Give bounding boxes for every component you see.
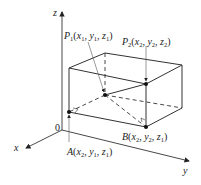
point-p2 <box>144 82 148 86</box>
label-a: A(x2, y1, z1) <box>66 146 112 158</box>
y-axis-label: y <box>182 165 188 176</box>
distance-formula-diagram: z 0 x y P1(x1, y1, z1) P2(x2, y2, z2) B(… <box>0 0 201 185</box>
segment-p1-p2 <box>105 84 146 95</box>
leader-p1 <box>88 42 104 92</box>
point-b <box>144 125 148 129</box>
right-angle-mark-a <box>73 108 78 113</box>
right-angle-mark-b <box>141 118 145 122</box>
origin-label: 0 <box>55 122 60 133</box>
label-p1: P1(x1, y1, z1) <box>63 30 113 42</box>
z-axis-label: z <box>52 7 57 18</box>
point-p1 <box>103 93 107 97</box>
label-p2: P2(x2, y2, z2) <box>121 36 171 48</box>
point-a <box>67 110 71 114</box>
x-axis-label: x <box>13 142 19 153</box>
label-b: B(x2, y2, z1) <box>122 131 167 143</box>
